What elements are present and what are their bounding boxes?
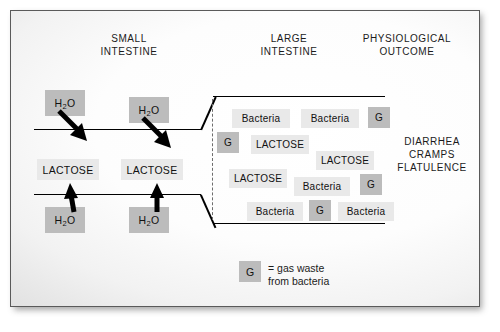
water-label: H2O bbox=[139, 214, 160, 226]
bacteria-chip: Bacteria bbox=[338, 202, 394, 221]
water-label: H2O bbox=[55, 214, 76, 226]
legend-description: = gas waste from bacteria bbox=[268, 261, 329, 287]
lactose-osmosis-arrow-right bbox=[147, 183, 167, 213]
column-header-small-intestine: SMALL INTESTINE bbox=[69, 33, 189, 58]
legend-gas-swatch: G bbox=[239, 261, 261, 282]
gas-chip: G bbox=[360, 174, 382, 195]
lactose-intolerance-diagram-panel: SMALL INTESTINE LARGE INTESTINE PHYSIOLO… bbox=[10, 10, 480, 307]
bacteria-chip: Bacteria bbox=[294, 177, 350, 196]
water-label: H2O bbox=[55, 97, 76, 109]
intestine-boundary-dashed-divider bbox=[212, 99, 213, 220]
bacteria-chip: Bacteria bbox=[247, 202, 303, 221]
physiological-outcome-text: DIARRHEA CRAMPS FLATULENCE bbox=[383, 135, 480, 174]
lactose-osmosis-arrow-left bbox=[63, 183, 83, 213]
column-header-large-intestine: LARGE INTESTINE bbox=[229, 33, 349, 58]
water-influx-arrow-upper-right bbox=[141, 116, 175, 150]
figure-caption bbox=[14, 318, 484, 331]
column-header-physiological-outcome: PHYSIOLOGICAL OUTCOME bbox=[341, 33, 473, 58]
figure-root: SMALL INTESTINE LARGE INTESTINE PHYSIOLO… bbox=[0, 0, 500, 332]
bacteria-chip: Bacteria bbox=[232, 109, 290, 128]
large-intestine-bottom-wall bbox=[213, 223, 385, 225]
lactose-chip-small-intestine-right: LACTOSE bbox=[121, 159, 183, 180]
large-intestine-top-wall bbox=[213, 96, 385, 98]
small-intestine-bottom-wall bbox=[34, 194, 201, 196]
water-influx-arrow-upper-left bbox=[57, 109, 91, 143]
lactose-chip-small-intestine-left: LACTOSE bbox=[37, 159, 99, 180]
lactose-chip: LACTOSE bbox=[229, 169, 287, 188]
gas-chip: G bbox=[309, 200, 331, 221]
water-label: H2O bbox=[139, 104, 160, 116]
lactose-chip: LACTOSE bbox=[251, 135, 309, 154]
gas-chip: G bbox=[217, 132, 239, 153]
lactose-chip: LACTOSE bbox=[316, 151, 374, 170]
legend: G = gas waste from bacteria bbox=[239, 261, 329, 287]
intestine-transition-top-wall bbox=[200, 96, 216, 130]
gas-chip: G bbox=[368, 107, 390, 128]
bacteria-chip: Bacteria bbox=[301, 109, 359, 128]
